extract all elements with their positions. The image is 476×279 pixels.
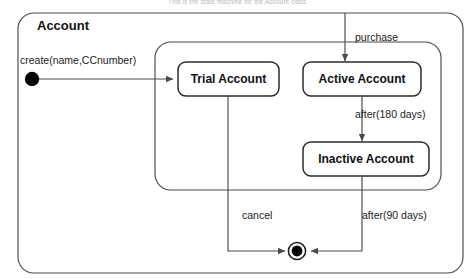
frame-title-account: Account [37,18,89,33]
state-label-active-account: Active Account [303,72,421,86]
state-machine-diagram [0,0,476,279]
transition-label-cancel: cancel [242,209,272,221]
transition-cancel [228,96,285,251]
transition-label-create: create(name,CCnumber) [20,54,136,66]
final-state-core [292,246,303,257]
initial-state-node [25,72,39,86]
state-label-trial-account: Trial Account [178,72,279,86]
transition-label-purchase: purchase [355,31,398,43]
transition-after-90-days [311,176,362,251]
transition-label-after-180-days: after(180 days) [355,108,426,120]
transition-label-after-90-days: after(90 days) [362,209,427,221]
state-label-inactive-account: Inactive Account [303,152,429,166]
diagram-canvas: This is the state machine for the Accoun… [0,0,476,279]
